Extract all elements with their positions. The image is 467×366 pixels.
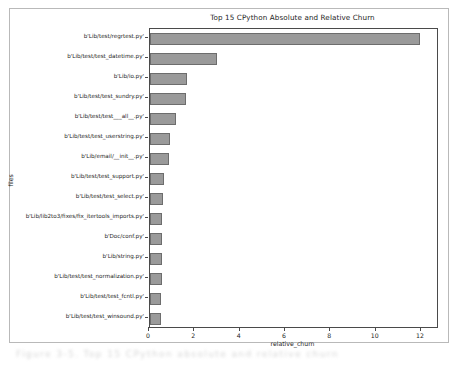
y-tick-label: b'Lib/test/test___all__.py': [75, 114, 144, 120]
bar-row: [150, 173, 437, 185]
y-tick-label: b'Doc/conf.py': [104, 234, 144, 240]
bar: [150, 33, 420, 45]
bar-row: [150, 233, 437, 245]
x-tick-label: 0: [146, 332, 150, 339]
y-axis-title: files: [7, 174, 14, 187]
y-tick-label: b'Lib/test/regrtest.py': [84, 34, 144, 40]
x-tick-mark: [284, 327, 285, 331]
bar-row: [150, 93, 437, 105]
y-tick-mark: [145, 197, 149, 198]
bar: [150, 113, 176, 125]
figure-page: Top 15 CPython Absolute and Relative Chu…: [0, 0, 467, 366]
y-tick-mark: [145, 157, 149, 158]
bar-row: [150, 153, 437, 165]
bars-container: [150, 29, 437, 327]
y-tick-label: b'Lib/test/test_userstring.py': [64, 134, 144, 140]
bar: [150, 73, 187, 85]
y-tick-label: b'Lib/email/__init__.py': [81, 154, 144, 160]
bar-row: [150, 213, 437, 225]
bar: [150, 173, 164, 185]
bar: [150, 253, 162, 265]
x-tick-mark: [420, 327, 421, 331]
y-tick-mark: [145, 317, 149, 318]
y-tick-mark: [145, 57, 149, 58]
bar-row: [150, 53, 437, 65]
bar-row: [150, 273, 437, 285]
bar: [150, 293, 161, 305]
x-tick-mark: [193, 327, 194, 331]
bar: [150, 213, 162, 225]
y-tick-label: b'Lib/test/test_winsound.py': [66, 314, 144, 320]
y-tick-label: b'Lib/test/test_normalization.py': [54, 274, 144, 280]
y-tick-mark: [145, 77, 149, 78]
y-tick-mark: [145, 97, 149, 98]
bar: [150, 53, 217, 65]
figure-caption: Figure 3-5. Top 15 CPython absolute and …: [16, 349, 339, 359]
y-tick-label: b'Lib/io.py': [114, 74, 144, 80]
bar: [150, 273, 162, 285]
y-tick-label: b'Lib/string.py': [103, 254, 144, 260]
y-tick-label: b'Lib/test/test_datetime.py': [67, 54, 144, 60]
bar-row: [150, 73, 437, 85]
y-tick-mark: [145, 137, 149, 138]
plot-area: [149, 28, 438, 328]
y-tick-label: b'Lib/test/test_support.py': [71, 174, 144, 180]
bar: [150, 233, 162, 245]
bar-row: [150, 33, 437, 45]
y-tick-label: b'Lib/lib2to3/fixes/fix_itertools_import…: [26, 214, 144, 220]
x-tick-mark: [148, 327, 149, 331]
x-axis-title: relative_churn: [148, 340, 437, 347]
bar: [150, 153, 169, 165]
x-tick-mark: [329, 327, 330, 331]
x-tick-label: 4: [237, 332, 241, 339]
y-tick-mark: [145, 37, 149, 38]
x-tick-label: 12: [416, 332, 424, 339]
x-tick-label: 10: [371, 332, 379, 339]
x-tick-mark: [375, 327, 376, 331]
y-tick-mark: [145, 177, 149, 178]
y-tick-mark: [145, 257, 149, 258]
y-axis-tick-labels: b'Lib/test/regrtest.py'b'Lib/test/test_d…: [0, 27, 144, 327]
y-tick-label: b'Lib/test/test_fcntl.py': [80, 294, 144, 300]
bar-row: [150, 193, 437, 205]
x-tick-mark: [239, 327, 240, 331]
bar-row: [150, 113, 437, 125]
bar-row: [150, 133, 437, 145]
bar-row: [150, 253, 437, 265]
bar: [150, 133, 170, 145]
bar-row: [150, 293, 437, 305]
y-tick-mark: [145, 297, 149, 298]
bar: [150, 313, 161, 325]
chart-title: Top 15 CPython Absolute and Relative Chu…: [148, 13, 437, 22]
y-tick-mark: [145, 217, 149, 218]
y-tick-mark: [145, 237, 149, 238]
x-tick-label: 6: [282, 332, 286, 339]
bar: [150, 93, 186, 105]
x-tick-label: 8: [327, 332, 331, 339]
y-tick-label: b'Lib/test/test_select.py': [76, 194, 144, 200]
bar-row: [150, 313, 437, 325]
bar: [150, 193, 163, 205]
y-tick-mark: [145, 277, 149, 278]
y-tick-mark: [145, 117, 149, 118]
y-tick-label: b'Lib/test/test_sundry.py': [74, 94, 144, 100]
x-tick-label: 2: [191, 332, 195, 339]
